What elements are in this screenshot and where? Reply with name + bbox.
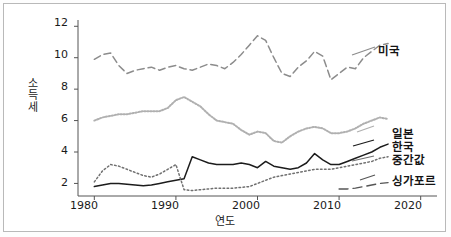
y-tick-label-4: 4: [44, 144, 68, 157]
series-label-singapore: 싱가포르: [392, 172, 436, 188]
series-line-일본: [94, 97, 388, 143]
y-tick-label-2: 2: [44, 176, 68, 189]
x-tick-label-2020: 2020: [388, 199, 428, 212]
x-tick-label-2000: 2000: [226, 199, 266, 212]
chart-page: 소득세 연도 12 10 8 6 4 2 1980 1990 2000 2010…: [0, 0, 451, 237]
x-tick-label-2010: 2010: [307, 199, 347, 212]
y-tick-label-12: 12: [44, 16, 68, 29]
x-tick-label-1990: 1990: [145, 199, 185, 212]
data-series-group: [94, 36, 388, 191]
series-line-싱가포르: [339, 183, 388, 189]
x-tick-label-1980: 1980: [64, 199, 104, 212]
y-axis-label: 소득세: [26, 78, 40, 114]
leader-usa: [352, 47, 375, 55]
y-axis-ticks: [74, 26, 78, 183]
y-tick-label-10: 10: [44, 48, 68, 61]
series-line-한국: [94, 144, 388, 186]
leader-korea: [353, 140, 374, 146]
series-line-미국: [94, 36, 388, 80]
y-tick-label-6: 6: [44, 112, 68, 125]
label-leader-lines: [352, 47, 375, 180]
series-label-usa: 미국: [378, 42, 400, 58]
y-tick-label-8: 8: [44, 80, 68, 93]
leader-singapore: [360, 175, 375, 180]
x-axis-label: 연도: [200, 212, 250, 228]
series-label-median: 중간값: [392, 151, 425, 167]
